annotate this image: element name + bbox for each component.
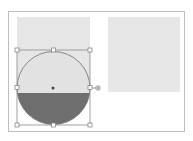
right-square-shape[interactable] xyxy=(108,17,180,92)
connector-handle-dot xyxy=(97,87,99,89)
center-point-icon xyxy=(52,87,55,90)
drawing-canvas[interactable] xyxy=(0,0,193,141)
resize-handle-top[interactable] xyxy=(52,48,56,52)
resize-handle-bottom[interactable] xyxy=(52,123,56,127)
resize-handle-top-left[interactable] xyxy=(15,48,19,52)
resize-handle-top-right[interactable] xyxy=(88,48,92,52)
resize-handle-bottom-right[interactable] xyxy=(88,123,92,127)
resize-handle-left[interactable] xyxy=(15,86,19,90)
resize-handle-bottom-left[interactable] xyxy=(15,123,19,127)
resize-handle-right[interactable] xyxy=(88,86,92,90)
